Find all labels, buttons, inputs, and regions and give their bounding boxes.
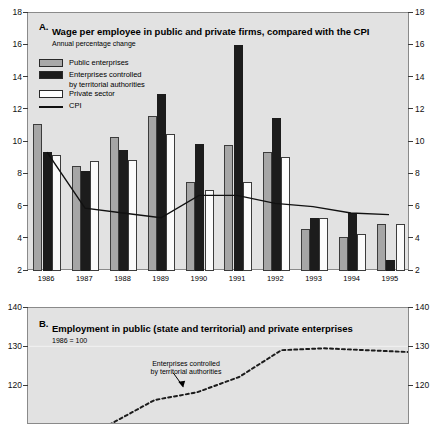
- x-axis-label-1990: 1990: [184, 274, 214, 283]
- y-tick-6-l: [23, 205, 28, 206]
- y-axis-label-16-l: 16: [2, 40, 22, 49]
- x-axis-label-1991: 1991: [222, 274, 252, 283]
- panel-b-plot-area: B.Employment in public (state and territ…: [27, 307, 409, 424]
- y-axis-label-8-r: 8: [415, 169, 435, 178]
- y-axis-label-10-l: 10: [2, 137, 22, 146]
- y-axis-label-2-r: 2: [415, 266, 435, 275]
- y-axis-label-18-l: 18: [2, 8, 22, 17]
- y-axis-label-14-l: 14: [2, 73, 22, 82]
- y-tick-16-r: [408, 44, 413, 45]
- panel-b-annotation-arrowhead-icon: [178, 381, 185, 388]
- y-axis-label-12-r: 12: [415, 105, 435, 114]
- y-axis-label-6-r: 6: [415, 202, 435, 211]
- panel-b-y-axis-label-130-r: 130: [415, 342, 435, 351]
- y-axis-label-2-l: 2: [2, 266, 22, 275]
- y-tick-16-l: [23, 44, 28, 45]
- panel-b-y-axis-label-140-r: 140: [415, 303, 435, 312]
- panel-a-cpi-line: [28, 13, 408, 269]
- y-tick-2-l: [23, 270, 28, 271]
- x-axis-label-1989: 1989: [146, 274, 176, 283]
- panel-b-y-tick-130-r: [408, 346, 413, 347]
- y-tick-10-r: [408, 141, 413, 142]
- panel-b-y-tick-120-r: [408, 385, 413, 386]
- panel-b-y-tick-140-l: [23, 307, 28, 308]
- y-tick-4-r: [408, 237, 413, 238]
- x-axis-label-1987: 1987: [69, 274, 99, 283]
- y-axis-label-8-l: 8: [2, 169, 22, 178]
- x-axis-label-1986: 1986: [31, 274, 61, 283]
- y-tick-4-l: [23, 237, 28, 238]
- y-tick-8-l: [23, 173, 28, 174]
- y-tick-6-r: [408, 205, 413, 206]
- panel-b-y-tick-120-l: [23, 385, 28, 386]
- y-tick-8-r: [408, 173, 413, 174]
- x-axis-label-1995: 1995: [375, 274, 405, 283]
- y-tick-2-r: [408, 270, 413, 271]
- y-tick-10-l: [23, 141, 28, 142]
- panel-b-y-axis-label-130-l: 130: [2, 342, 22, 351]
- panel-b-series-line: [28, 308, 408, 423]
- y-axis-label-14-r: 14: [415, 73, 435, 82]
- x-axis-label-1994: 1994: [337, 274, 367, 283]
- panel-b-y-axis-label-140-l: 140: [2, 303, 22, 312]
- x-axis-label-1993: 1993: [299, 274, 329, 283]
- panel-b-dotted-series: [28, 348, 408, 423]
- y-tick-14-r: [408, 76, 413, 77]
- y-tick-18-l: [23, 12, 28, 13]
- panel-a-wage-chart: A.Wage per employee in public and privat…: [0, 12, 436, 292]
- y-tick-12-l: [23, 108, 28, 109]
- y-tick-18-r: [408, 12, 413, 13]
- y-axis-label-18-r: 18: [415, 8, 435, 17]
- y-tick-12-r: [408, 108, 413, 109]
- panel-a-year-labels: 1986198719881989199019911992199319941995: [27, 272, 409, 286]
- panel-b-y-axis-label-120-l: 120: [2, 381, 22, 390]
- y-axis-label-6-l: 6: [2, 202, 22, 211]
- x-axis-label-1992: 1992: [260, 274, 290, 283]
- y-axis-label-12-l: 12: [2, 105, 22, 114]
- y-axis-label-10-r: 10: [415, 137, 435, 146]
- y-axis-label-4-l: 4: [2, 234, 22, 243]
- panel-b-y-axis-label-120-r: 120: [415, 381, 435, 390]
- cpi-polyline: [47, 152, 389, 218]
- panel-a-plot-area: A.Wage per employee in public and privat…: [27, 12, 409, 270]
- y-axis-label-16-r: 16: [415, 40, 435, 49]
- x-axis-label-1988: 1988: [108, 274, 138, 283]
- y-axis-label-4-r: 4: [415, 234, 435, 243]
- panel-b-y-tick-140-r: [408, 307, 413, 308]
- panel-b-employment-chart: B.Employment in public (state and territ…: [0, 307, 436, 424]
- panel-b-y-tick-130-l: [23, 346, 28, 347]
- y-tick-14-l: [23, 76, 28, 77]
